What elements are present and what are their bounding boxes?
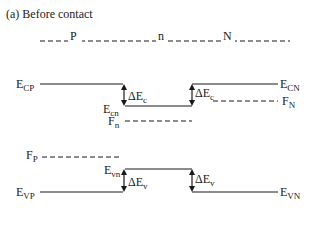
svg-text:Evn: Evn <box>104 163 121 179</box>
svg-text:ΔEc: ΔEc <box>195 86 214 102</box>
label-delta-ec-right: ΔEc <box>195 86 214 102</box>
svg-text:ΔEc: ΔEc <box>128 89 147 105</box>
label-delta-ev-left: ΔEv <box>128 175 148 191</box>
label-evp: EVP <box>16 185 35 201</box>
svg-text:ΔEv: ΔEv <box>128 175 148 191</box>
label-fn-right: FN <box>282 94 296 110</box>
region-label-N: N <box>223 29 232 43</box>
label-delta-ev-right: ΔEv <box>195 172 215 188</box>
band-diagram: (a) Before contact P n N ECP Ecn Fn ECN … <box>0 0 315 227</box>
region-label-n: n <box>158 29 164 43</box>
label-evn: Evn <box>104 163 121 179</box>
svg-text:EVN: EVN <box>280 185 301 201</box>
svg-text:ECP: ECP <box>16 77 34 93</box>
label-ecn-right: ECN <box>280 77 300 93</box>
svg-text:ΔEv: ΔEv <box>195 172 215 188</box>
svg-text:FP: FP <box>26 148 38 164</box>
label-evn-right: EVN <box>280 185 301 201</box>
svg-text:FN: FN <box>282 94 296 110</box>
label-ecp: ECP <box>16 77 34 93</box>
svg-text:ECN: ECN <box>280 77 300 93</box>
label-delta-ec-left: ΔEc <box>128 89 147 105</box>
svg-text:EVP: EVP <box>16 185 35 201</box>
label-fp: FP <box>26 148 38 164</box>
figure-title: (a) Before contact <box>6 7 93 21</box>
region-label-p: P <box>70 29 77 43</box>
